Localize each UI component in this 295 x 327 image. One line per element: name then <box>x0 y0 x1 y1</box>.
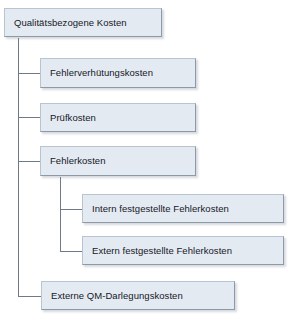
node-label: Fehlerverhütungskosten <box>41 67 159 79</box>
node-label: Extern festgestellte Fehlerkosten <box>83 245 238 257</box>
node-label: Externe QM-Darlegungskosten <box>42 290 189 302</box>
node-fehlerkosten[interactable]: Fehlerkosten <box>40 146 196 176</box>
node-pruefkosten[interactable]: Prüfkosten <box>40 103 196 132</box>
node-label: Qualitätsbezogene Kosten <box>5 17 133 29</box>
node-label: Fehlerkosten <box>41 155 112 167</box>
node-fehlerverhuetungskosten[interactable]: Fehlerverhütungskosten <box>40 58 196 88</box>
node-label: Intern festgestellte Fehlerkosten <box>83 203 235 215</box>
node-qualitaetsbezogene-kosten[interactable]: Qualitätsbezogene Kosten <box>4 8 162 37</box>
cost-hierarchy-diagram: Qualitätsbezogene Kosten Fehlerverhütung… <box>0 0 295 327</box>
node-label: Prüfkosten <box>41 112 102 124</box>
node-extern-festgestellte-fehlerkosten[interactable]: Extern festgestellte Fehlerkosten <box>82 236 284 265</box>
node-intern-festgestellte-fehlerkosten[interactable]: Intern festgestellte Fehlerkosten <box>82 194 284 223</box>
node-externe-qm-darlegungskosten[interactable]: Externe QM-Darlegungskosten <box>41 281 235 310</box>
